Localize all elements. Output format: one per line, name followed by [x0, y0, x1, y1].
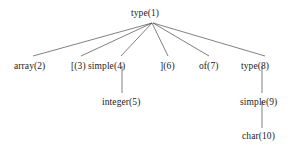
edge-type1-array2	[33, 23, 152, 56]
edge-type1-simple4	[121, 23, 152, 56]
edge-type1-type8	[153, 23, 265, 56]
tree-node-of-7[interactable]: of(7)	[199, 61, 219, 72]
tree-node-rbracket-6[interactable]: ](6)	[160, 61, 175, 72]
tree-node-simple-4[interactable]: simple(4)	[88, 61, 125, 72]
tree-node-array-2[interactable]: array(2)	[14, 61, 45, 72]
tree-node-integer-5[interactable]: integer(5)	[102, 97, 140, 108]
tree-edges	[0, 0, 295, 152]
tree-node-lbracket-3[interactable]: [(3)	[71, 61, 86, 72]
tree-node-type-1[interactable]: type(1)	[131, 8, 159, 19]
edge-type1-of7	[153, 23, 209, 56]
tree-node-char-10[interactable]: char(10)	[242, 131, 275, 142]
edge-type1-rbrack6	[152, 23, 168, 56]
tree-node-type-8[interactable]: type(8)	[241, 61, 269, 72]
tree-node-simple-9[interactable]: simple(9)	[240, 97, 277, 108]
